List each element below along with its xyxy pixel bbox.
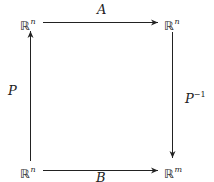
real-numbers-symbol: ℝ <box>164 19 174 33</box>
label-P-inverse-base: P <box>185 91 194 106</box>
label-B: B <box>96 171 106 182</box>
exponent: n <box>31 165 36 174</box>
exponent: n <box>31 17 36 26</box>
node-top-left: ℝn <box>20 15 36 33</box>
label-P-inverse: P−1 <box>185 88 206 106</box>
node-bottom-left: ℝn <box>20 163 36 181</box>
exponent: m <box>175 165 183 174</box>
node-top-right: ℝn <box>164 15 180 33</box>
real-numbers-symbol: ℝ <box>20 167 30 181</box>
real-numbers-symbol: ℝ <box>164 167 174 181</box>
exponent: n <box>175 17 180 26</box>
label-A: A <box>97 3 106 17</box>
label-P: P <box>8 84 17 98</box>
real-numbers-symbol: ℝ <box>20 19 30 33</box>
label-P-inverse-exp: −1 <box>194 90 206 99</box>
node-bottom-right: ℝm <box>164 163 182 181</box>
